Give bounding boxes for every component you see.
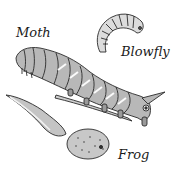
blowfly-label: Blowfly [121,45,170,58]
frog-tadpole-drawing [6,95,109,159]
larvae-diagram: Moth Blowfly Frog [0,0,177,173]
frog-label: Frog [118,148,149,161]
moth-label: Moth [16,26,51,39]
